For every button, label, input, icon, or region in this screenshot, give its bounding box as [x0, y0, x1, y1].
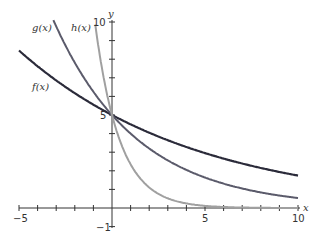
label-f: f(x) — [31, 81, 49, 92]
chart: g(x) h(x) f(x) y x −5 5 10 10 5 −1 — [0, 0, 323, 240]
label-h: h(x) — [71, 22, 91, 33]
curve-h — [95, 25, 298, 209]
y-tick-label: 5 — [100, 110, 106, 121]
x-tick-label: 10 — [292, 213, 305, 224]
y-tick-label: −1 — [96, 222, 111, 233]
curve-f — [19, 51, 298, 176]
x-tick-label: 5 — [202, 213, 208, 224]
curve-g — [53, 20, 298, 198]
x-axis-label: x — [303, 202, 309, 213]
x-tick-label: −5 — [13, 213, 28, 224]
y-axis-label: y — [107, 8, 114, 19]
label-g: g(x) — [32, 22, 52, 33]
y-tick-label: 10 — [93, 17, 106, 28]
